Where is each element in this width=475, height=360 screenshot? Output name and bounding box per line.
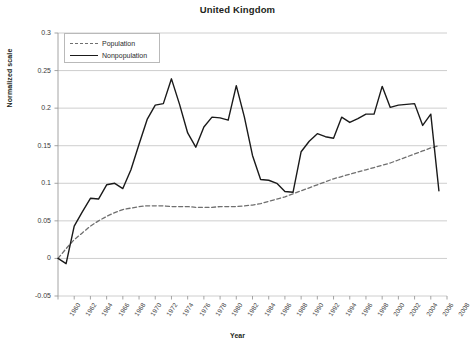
y-tick-label: 0.25: [17, 67, 51, 74]
y-tick-label: 0.1: [17, 179, 51, 186]
x-tick-marks: [58, 296, 447, 300]
dashed-line-icon: [69, 39, 99, 47]
gridlines: [58, 33, 447, 296]
legend-label-population: Population: [102, 40, 135, 47]
solid-line-icon: [69, 51, 99, 59]
y-tick-label: -0.05: [17, 292, 51, 299]
y-tick-label: 0: [17, 254, 51, 261]
legend-label-nonpopulation: Nonpopulation: [102, 52, 147, 59]
series-line-population: [58, 146, 439, 259]
chart-legend: Population Nonpopulation: [64, 33, 160, 63]
y-tick-label: 0.3: [17, 29, 51, 36]
legend-item-population: Population: [69, 37, 135, 49]
y-tick-marks: [55, 33, 59, 296]
y-tick-label: 0.2: [17, 104, 51, 111]
chart-container: United Kingdom Normalized scale Year 0.3…: [0, 0, 475, 360]
legend-item-nonpopulation: Nonpopulation: [69, 49, 147, 61]
series-line-nonpopulation: [58, 79, 439, 264]
y-tick-label: 0.15: [17, 142, 51, 149]
series-lines: [58, 79, 439, 264]
y-tick-label: 0.05: [17, 217, 51, 224]
